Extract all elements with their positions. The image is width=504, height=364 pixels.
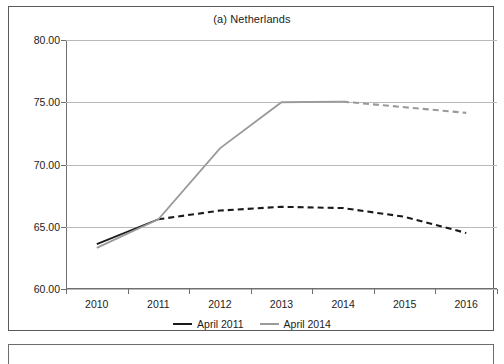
x-tick-mark-5 bbox=[374, 289, 375, 294]
figure-panel: (a) Netherlands 60.0065.0070.0075.0080.0… bbox=[8, 6, 494, 331]
legend-entry-april-2014[interactable]: April 2014 bbox=[260, 318, 331, 330]
y-tick-label-70.00: 70.00 bbox=[34, 159, 60, 171]
x-tick-mark-0 bbox=[66, 289, 67, 294]
chart-title: (a) Netherlands bbox=[9, 13, 495, 25]
legend-entry-april-2011[interactable]: April 2011 bbox=[173, 318, 244, 330]
x-tick-label-2014: 2014 bbox=[331, 298, 354, 310]
legend-swatch-april-2011 bbox=[173, 323, 192, 325]
chart-legend: April 2011April 2014 bbox=[9, 318, 495, 330]
x-tick-mark-2 bbox=[189, 289, 190, 294]
plot-area bbox=[66, 40, 497, 289]
y-tick-label-75.00: 75.00 bbox=[34, 96, 60, 108]
legend-label: April 2014 bbox=[284, 318, 331, 330]
y-tick-label-65.00: 65.00 bbox=[34, 221, 60, 233]
x-tick-mark-6 bbox=[435, 289, 436, 294]
y-tick-label-80.00: 80.00 bbox=[34, 34, 60, 46]
x-tick-label-2013: 2013 bbox=[270, 298, 293, 310]
x-tick-label-2011: 2011 bbox=[147, 298, 170, 310]
y-tick-label-60.00: 60.00 bbox=[34, 283, 60, 295]
series-line-april-2014-actual bbox=[97, 102, 343, 248]
series-container bbox=[66, 40, 497, 289]
x-tick-mark-3 bbox=[251, 289, 252, 294]
x-tick-label-2016: 2016 bbox=[455, 298, 478, 310]
series-line-april-2014-projected bbox=[343, 102, 466, 113]
x-tick-mark-4 bbox=[312, 289, 313, 294]
x-tick-mark-1 bbox=[128, 289, 129, 294]
y-axis-tick-labels: 60.0065.0070.0075.0080.00 bbox=[9, 40, 60, 289]
x-axis-tick-labels: 2010201120122013201420152016 bbox=[66, 295, 497, 315]
gridline-60.00 bbox=[66, 289, 497, 290]
x-tick-label-2010: 2010 bbox=[85, 298, 108, 310]
x-tick-label-2015: 2015 bbox=[393, 298, 416, 310]
x-tick-mark-7 bbox=[497, 289, 498, 294]
next-figure-panel-edge bbox=[8, 344, 494, 364]
series-line-april-2011-projected bbox=[158, 207, 466, 233]
legend-swatch-april-2014 bbox=[260, 323, 279, 325]
x-tick-label-2012: 2012 bbox=[208, 298, 231, 310]
legend-label: April 2011 bbox=[197, 318, 244, 330]
